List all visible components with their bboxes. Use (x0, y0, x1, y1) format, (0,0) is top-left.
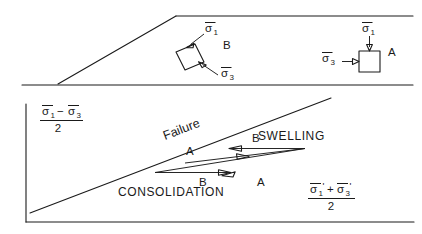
element-b-label: B (223, 39, 231, 51)
x-label-operator: + (327, 183, 334, 195)
element-b-sigma3-symbol: σ (221, 67, 228, 79)
x-label-sigma1-symbol: σ (310, 183, 317, 195)
swelling-label: SWELLING (258, 129, 325, 143)
element-b-sigma1-label: σ 1 (205, 22, 219, 37)
element-a-sigma3-label: σ 3 (322, 52, 336, 67)
element-a-sigma1-symbol: σ (362, 22, 369, 34)
x-label-denominator: 2 (328, 200, 334, 212)
stress-path-plot: σ 1 − σ 3 2 σ 1 ' + σ 3 ' 2 (26, 98, 414, 222)
figure-canvas: σ 1 σ 3 B (0, 0, 422, 234)
element-b-sigma1-arrowhead (187, 43, 195, 48)
element-b-sigma3-label: σ 3 (221, 67, 235, 82)
path-label-b-lower: B (199, 176, 207, 188)
path-label-a-upper: A (186, 145, 194, 157)
element-a-label: A (388, 46, 396, 58)
path-label-a-lower: A (257, 176, 265, 188)
x-label-sigma1-prime: ' (323, 180, 325, 191)
y-axis-label: σ 1 − σ 3 2 (40, 105, 83, 134)
y-label-operator: − (57, 105, 64, 117)
element-a-sigma3-symbol: σ (322, 52, 329, 64)
element-a-sigma3-subscript: 3 (331, 58, 336, 67)
y-label-denominator: 2 (55, 122, 61, 134)
x-axis-label: σ 1 ' + σ 3 ' 2 (308, 180, 355, 212)
element-b-sigma3-subscript: 3 (230, 73, 235, 82)
element-a-square (359, 51, 380, 72)
y-label-sigma3-symbol: σ (68, 105, 75, 117)
embankment-cross-section: σ 1 σ 3 B (22, 16, 413, 85)
path-a-lower-line (155, 149, 305, 173)
x-label-sigma3-prime: ' (350, 180, 352, 191)
path-label-b-upper: B (252, 132, 260, 144)
soil-element-b: σ 1 σ 3 B (176, 22, 235, 82)
y-label-sigma1-symbol: σ (42, 105, 49, 117)
soil-element-a: σ 1 σ 3 A (322, 22, 396, 72)
embankment-slope-line (58, 16, 176, 84)
element-b-sigma1-subscript: 1 (214, 28, 219, 37)
y-label-sigma1-subscript: 1 (51, 111, 56, 120)
stress-path-figure: σ 1 σ 3 B (0, 0, 422, 234)
element-b-sigma1-symbol: σ (205, 22, 212, 34)
element-a-sigma1-subscript: 1 (371, 28, 376, 37)
x-label-sigma3-symbol: σ (337, 183, 344, 195)
failure-envelope-label: Failure (161, 116, 202, 143)
y-label-sigma3-subscript: 3 (77, 111, 82, 120)
element-b-sigma1-arrow-shaft (191, 34, 205, 45)
element-a-sigma1-label: σ 1 (362, 22, 376, 37)
element-a-sigma3-arrowhead (353, 59, 360, 65)
consolidation-label: CONSOLIDATION (118, 185, 224, 199)
